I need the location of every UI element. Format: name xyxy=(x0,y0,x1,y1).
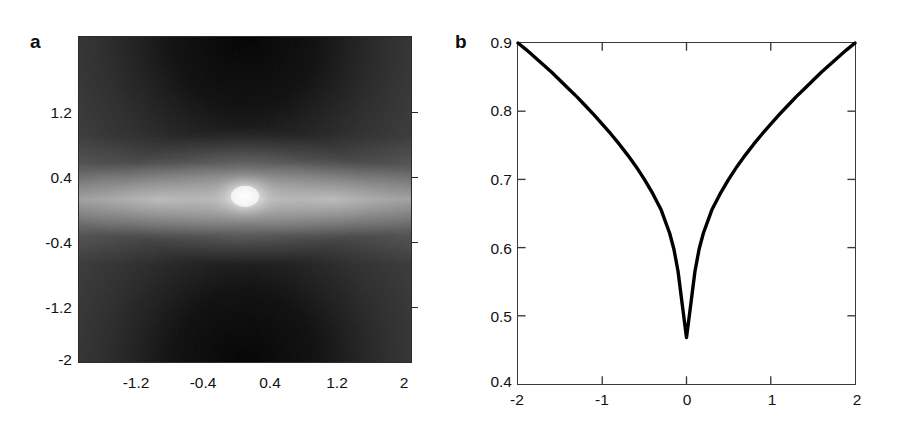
panel-b-xtick-label: 1 xyxy=(748,392,796,408)
panel-b-ytick-label: 0.7 xyxy=(452,172,512,188)
panel-a-xtick-label: -0.4 xyxy=(178,375,228,391)
panel-a-ytick-label: -1.2 xyxy=(14,300,72,316)
figure-container: a xyxy=(0,0,897,437)
heatmap-svg xyxy=(79,37,411,362)
data-curve xyxy=(518,43,855,338)
panel-b-ytick-marks xyxy=(518,111,855,316)
panel-a-xtick-label: 1.2 xyxy=(312,375,362,391)
line-chart-svg xyxy=(518,43,855,384)
panel-b-xtick-label: 0 xyxy=(663,392,711,408)
panel-a-ytick-label: 0.4 xyxy=(14,170,72,186)
panel-b-ytick-label: 0.4 xyxy=(452,374,512,390)
panel-a-ytick-label: 1.2 xyxy=(14,105,72,121)
panel-b: b xyxy=(450,0,897,437)
panel-b-ytick-label: 0.9 xyxy=(452,35,512,51)
panel-a-ytick-mark xyxy=(412,177,418,178)
panel-a-letter: a xyxy=(30,32,41,51)
panel-a-ytick-label: -2 xyxy=(14,352,72,368)
panel-a-heatmap-image xyxy=(78,36,412,363)
panel-a-ytick-mark xyxy=(412,112,418,113)
panel-a: a xyxy=(0,0,450,437)
panel-b-xtick-label: 2 xyxy=(833,392,881,408)
panel-a-xtick-label: -1.2 xyxy=(111,375,161,391)
panel-b-xtick-label: -2 xyxy=(493,392,541,408)
panel-a-xtick-label: 2 xyxy=(389,375,419,391)
panel-a-xtick-label: 0.4 xyxy=(245,375,295,391)
panel-b-plot-area xyxy=(517,42,856,385)
panel-a-ytick-mark xyxy=(412,242,418,243)
panel-b-ytick-label: 0.8 xyxy=(452,103,512,119)
panel-b-xtick-label: -1 xyxy=(578,392,626,408)
panel-b-ytick-label: 0.5 xyxy=(452,309,512,325)
panel-a-ytick-label: -0.4 xyxy=(14,235,72,251)
panel-a-ytick-mark xyxy=(412,307,418,308)
panel-b-ytick-label: 0.6 xyxy=(452,241,512,257)
